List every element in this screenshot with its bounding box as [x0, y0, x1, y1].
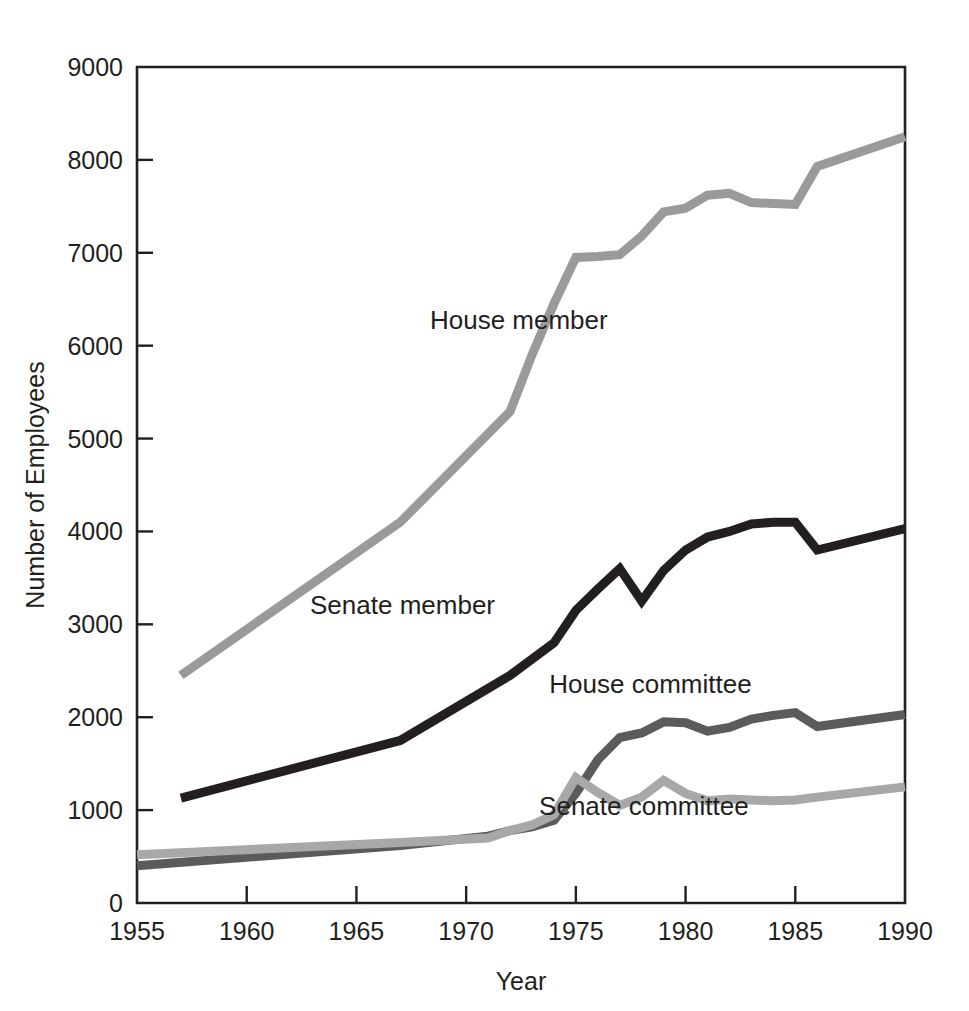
x-axis-ticks: 19551960196519701975198019851990 — [109, 886, 933, 945]
y-tick-label: 6000 — [67, 332, 123, 360]
y-tick-label: 5000 — [67, 425, 123, 453]
y-tick-label: 3000 — [67, 610, 123, 638]
chart-canvas: 0100020003000400050006000700080009000 19… — [0, 0, 969, 1011]
y-axis-title: Number of Employees — [21, 361, 49, 608]
y-tick-label: 4000 — [67, 517, 123, 545]
x-tick-label: 1980 — [658, 917, 714, 945]
x-tick-label: 1955 — [109, 917, 165, 945]
x-tick-label: 1985 — [767, 917, 823, 945]
y-tick-label: 9000 — [67, 53, 123, 81]
series-line-senate-member — [181, 522, 905, 798]
series-label-senate-committee: Senate committee — [539, 791, 749, 821]
series-line-senate-committee — [137, 778, 905, 855]
x-tick-label: 1960 — [219, 917, 275, 945]
y-axis-ticks: 0100020003000400050006000700080009000 — [67, 53, 153, 917]
series-line-house-committee — [137, 713, 905, 866]
series-label-senate-member: Senate member — [310, 590, 495, 620]
x-tick-label: 1965 — [329, 917, 385, 945]
series-line-house-member — [181, 137, 905, 676]
x-tick-label: 1970 — [438, 917, 494, 945]
x-tick-label: 1975 — [548, 917, 604, 945]
y-tick-label: 0 — [109, 889, 123, 917]
series-label-house-member: House member — [430, 305, 608, 335]
line-chart: 0100020003000400050006000700080009000 19… — [0, 0, 969, 1011]
x-axis-title: Year — [496, 967, 547, 995]
y-tick-label: 2000 — [67, 703, 123, 731]
y-tick-label: 1000 — [67, 796, 123, 824]
x-tick-label: 1990 — [877, 917, 933, 945]
series-lines — [137, 137, 905, 866]
y-tick-label: 8000 — [67, 146, 123, 174]
y-tick-label: 7000 — [67, 239, 123, 267]
series-label-house-committee: House committee — [549, 669, 751, 699]
